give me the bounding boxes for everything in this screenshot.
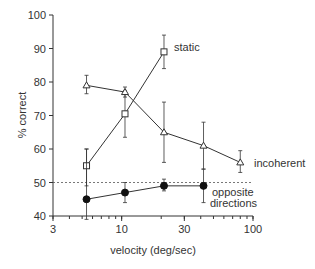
series-label-static: static [174, 41, 200, 53]
series-incoherent [83, 75, 244, 172]
square-marker [161, 49, 167, 55]
y-tick-label: 70 [34, 110, 46, 122]
series-opposite-directions [83, 149, 207, 219]
circle-marker [83, 196, 90, 203]
triangle-marker [83, 82, 90, 88]
square-marker [122, 111, 128, 117]
circle-marker [121, 189, 128, 196]
y-tick-label: 60 [34, 143, 46, 155]
circle-marker [160, 182, 167, 189]
x-tick-label: 10 [116, 223, 128, 235]
y-tick-label: 80 [34, 76, 46, 88]
y-tick-label: 50 [34, 177, 46, 189]
circle-marker [200, 182, 207, 189]
y-tick-label: 100 [28, 9, 46, 21]
x-tick-label: 30 [178, 223, 190, 235]
y-tick-label: 40 [34, 210, 46, 222]
series-label-directions: directions [210, 197, 258, 209]
series-line [87, 186, 204, 199]
y-tick-label: 90 [34, 43, 46, 55]
series-line [87, 85, 241, 162]
series-static [84, 35, 167, 186]
triangle-marker [237, 159, 244, 165]
y-axis-title: % correct [16, 92, 28, 138]
x-tick-label: 100 [244, 223, 262, 235]
chart-plot: 40506070809010031030100 % correct veloci… [0, 0, 315, 269]
series-label-incoherent: incoherent [254, 157, 305, 169]
x-tick-label: 3 [50, 223, 56, 235]
x-axis-title: velocity (deg/sec) [110, 244, 196, 256]
chart: 40506070809010031030100 % correct veloci… [0, 0, 315, 269]
